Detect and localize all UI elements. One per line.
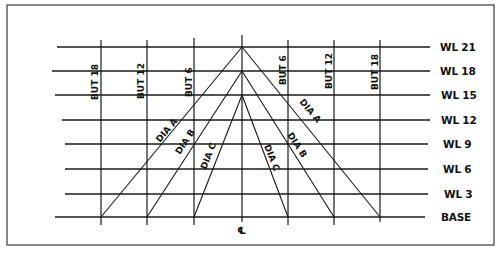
label-wl6: WL 6: [443, 163, 471, 175]
label-but6-right: BUT 6: [278, 55, 288, 85]
diagonal-c-right: [242, 95, 288, 217]
label-base: BASE: [441, 211, 471, 223]
waterline-labels: WL 21 WL 18 WL 15 WL 12 WL 9 WL 6 WL 3 B…: [440, 41, 477, 223]
diagonal-a-right: [242, 47, 380, 217]
label-but12-left: BUT 12: [136, 63, 146, 99]
centerline-symbol: ℄: [237, 225, 246, 236]
label-but18-right: BUT 18: [370, 54, 380, 90]
label-but18-left: BUT 18: [90, 64, 100, 100]
label-wl15: WL 15: [441, 89, 477, 101]
label-dia-c-left: DIA C: [199, 141, 219, 171]
label-dia-b-left: DIA B: [173, 127, 197, 156]
diagram-frame: [7, 5, 494, 245]
buttock-labels: BUT 18 BUT 12 BUT 6 BUT 6 BUT 12 BUT 18: [90, 53, 380, 100]
diagonal-labels: DIA A DIA B DIA C DIA A DIA B DIA C: [154, 97, 323, 173]
label-wl18: WL 18: [440, 65, 476, 77]
label-wl21: WL 21: [440, 41, 476, 53]
label-wl3: WL 3: [444, 188, 472, 200]
label-but12-right: BUT 12: [324, 53, 334, 89]
diagonal-c-left: [194, 95, 242, 217]
label-wl9: WL 9: [443, 138, 471, 150]
label-wl12: WL 12: [441, 114, 477, 126]
label-but6-left: BUT 6: [184, 67, 194, 97]
lines-diagram: WL 21 WL 18 WL 15 WL 12 WL 9 WL 6 WL 3 B…: [0, 0, 501, 253]
